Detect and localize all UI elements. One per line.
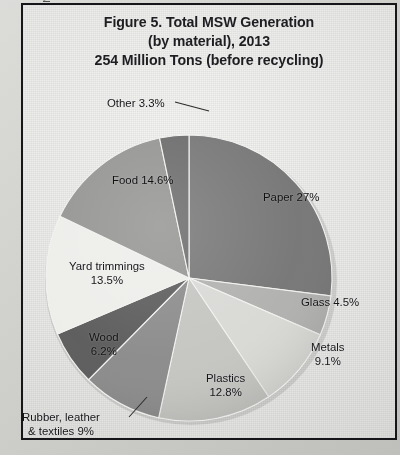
slice-label-yard-line-2: 13.5%: [69, 274, 145, 288]
slice-label-metals: Metals 9.1%: [311, 341, 345, 368]
figure-title-line-1: Figure 5. Total MSW Generation: [23, 13, 395, 32]
slice-label-other-line-1: Other 3.3%: [107, 97, 165, 110]
slice-label-other: Other 3.3%: [107, 97, 165, 110]
slice-label-paper-line-1: Paper 27%: [263, 191, 319, 204]
slice-label-wood: Wood 6.2%: [89, 331, 119, 358]
slice-label-plastics-line-2: 12.8%: [206, 386, 245, 400]
slice-label-rubber-leather-textiles: Rubber, leather & textiles 9%: [22, 411, 100, 438]
figure-title: Figure 5. Total MSW Generation (by mater…: [23, 13, 395, 70]
slice-label-metals-line-1: Metals: [311, 341, 345, 355]
slice-label-plastics-line-1: Plastics: [206, 372, 245, 386]
slice-label-food-line-1: Food 14.6%: [112, 174, 173, 187]
slice-label-glass-line-1: Glass 4.5%: [301, 296, 359, 309]
figure-title-line-2: (by material), 2013: [23, 32, 395, 51]
slice-label-food: Food 14.6%: [112, 174, 173, 187]
slice-label-plastics: Plastics 12.8%: [206, 372, 245, 399]
slice-label-rubber-line-1: Rubber, leather: [22, 411, 100, 425]
figure-title-line-3: 254 Million Tons (before recycling): [23, 51, 395, 70]
slice-label-wood-line-2: 6.2%: [89, 345, 119, 359]
scanned-page-background: Figure 5, pp7, U.S. Environmental Protec…: [0, 0, 400, 455]
slice-label-yard-trimmings: Yard trimmings 13.5%: [69, 260, 145, 287]
slice-label-wood-line-1: Wood: [89, 331, 119, 345]
figure-frame: Figure 5. Total MSW Generation (by mater…: [21, 3, 397, 440]
slice-label-paper: Paper 27%: [263, 191, 319, 204]
leader-line-other: [175, 102, 209, 111]
slice-label-glass: Glass 4.5%: [301, 296, 359, 309]
slice-label-metals-line-2: 9.1%: [311, 355, 345, 369]
slice-label-yard-line-1: Yard trimmings: [69, 260, 145, 274]
slice-label-rubber-line-2: & textiles 9%: [22, 425, 100, 439]
